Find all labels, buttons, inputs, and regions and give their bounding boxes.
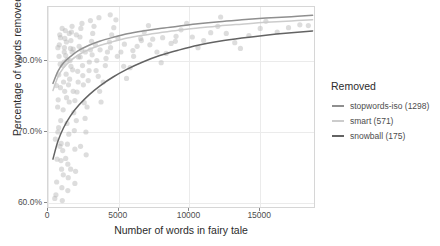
scatter-point	[78, 144, 83, 149]
scatter-point	[66, 82, 71, 87]
scatter-point	[224, 31, 229, 36]
y-axis-tick-mark	[44, 202, 47, 203]
scatter-point	[115, 54, 120, 59]
scatter-point	[146, 23, 151, 28]
scatter-point	[72, 181, 77, 186]
scatter-point	[84, 104, 89, 109]
scatter-point	[121, 64, 126, 69]
scatter-point	[88, 18, 93, 23]
scatter-point	[61, 79, 66, 84]
scatter-point	[80, 73, 85, 78]
x-axis-title: Number of words in fairy tale	[47, 224, 315, 236]
scatter-point	[97, 47, 102, 52]
scatter-point	[78, 26, 83, 31]
scatter-point	[53, 192, 58, 197]
x-axis-tick-label: 0	[17, 211, 77, 220]
legend-item-label: smart (571)	[350, 116, 393, 126]
scatter-point	[86, 78, 91, 83]
scatter-point	[306, 23, 311, 28]
scatter-point	[232, 40, 237, 45]
scatter-point	[103, 56, 108, 61]
scatter-point	[139, 38, 144, 43]
legend-item[interactable]: stopwords-iso (1298)	[331, 99, 439, 113]
scatter-point	[65, 142, 70, 147]
y-axis-tick-mark	[44, 131, 47, 132]
scatter-point	[73, 169, 78, 174]
scatter-point	[83, 129, 88, 134]
chart-root: Percentage of words removed Number of wo…	[0, 0, 440, 246]
scatter-point	[76, 79, 81, 84]
y-axis-tick-label: 70.0%	[0, 127, 42, 136]
scatter-point	[105, 49, 110, 54]
scatter-point	[64, 39, 69, 44]
scatter-point	[130, 48, 135, 53]
legend-item[interactable]: snowball (175)	[331, 129, 439, 143]
scatter-point	[74, 32, 79, 37]
scatter-point	[59, 185, 64, 190]
legend-item[interactable]: smart (571)	[331, 114, 439, 128]
scatter-point	[91, 24, 96, 29]
scatter-point	[118, 49, 123, 54]
scatter-point	[238, 46, 243, 51]
y-axis-title: Percentage of words removed	[11, 0, 23, 146]
scatter-point	[84, 152, 89, 157]
scatter-point	[68, 64, 73, 69]
y-axis-tick-label: 80.0%	[0, 56, 42, 65]
scatter-point	[65, 188, 70, 193]
scatter-point	[86, 68, 91, 73]
scatter-point	[57, 144, 62, 149]
scatter-point	[69, 24, 74, 29]
scatter-point	[98, 99, 103, 104]
scatter-point	[54, 179, 59, 184]
scatter-point	[111, 25, 116, 30]
scatter-point	[80, 63, 85, 68]
scatter-point	[97, 89, 102, 94]
scatter-point	[71, 47, 76, 52]
scatter-point	[108, 12, 113, 17]
scatter-point	[55, 45, 60, 50]
scatter-point	[60, 26, 65, 31]
scatter-point	[208, 30, 213, 35]
scatter-point	[96, 74, 101, 79]
legend: Removed stopwords-iso (1298)smart (571)s…	[331, 80, 439, 144]
x-axis-tick-label: 15000	[229, 211, 289, 220]
x-axis-tick-mark	[118, 208, 119, 211]
scatter-point	[56, 125, 61, 130]
scatter-point	[63, 156, 68, 161]
scatter-point	[103, 63, 108, 68]
scatter-point	[190, 34, 195, 39]
scatter-point	[94, 58, 99, 63]
scatter-point	[72, 128, 77, 133]
scatter-point	[81, 82, 86, 87]
scatter-point	[66, 132, 71, 137]
scatter-point	[122, 42, 127, 47]
scatter-point	[90, 52, 95, 57]
scatter-point	[58, 35, 63, 40]
scatter-point	[55, 104, 60, 109]
scatter-point	[150, 37, 155, 42]
scatter-point	[67, 99, 72, 104]
scatter-point	[59, 167, 64, 172]
scatter-point	[108, 45, 113, 50]
scatter-point	[159, 60, 164, 65]
scatter-point	[64, 95, 69, 100]
scatter-point	[154, 49, 159, 54]
legend-title: Removed	[331, 80, 439, 92]
scatter-point	[61, 172, 66, 177]
legend-item-label: snowball (175)	[350, 131, 405, 141]
scatter-point	[94, 68, 99, 73]
scatter-point	[74, 118, 79, 123]
x-axis-tick-label: 10000	[158, 211, 218, 220]
scatter-point	[218, 14, 223, 19]
trend-curves-layer	[53, 15, 313, 159]
scatter-point	[87, 59, 92, 64]
scatter-point	[68, 167, 73, 172]
scatter-point	[297, 22, 302, 27]
scatter-point	[67, 31, 72, 36]
scatter-point	[160, 35, 165, 40]
scatter-point	[65, 162, 70, 167]
scatter-point	[74, 89, 79, 94]
scatter-point	[56, 54, 61, 59]
scatter-point	[62, 49, 67, 54]
scatter-point	[82, 116, 87, 121]
